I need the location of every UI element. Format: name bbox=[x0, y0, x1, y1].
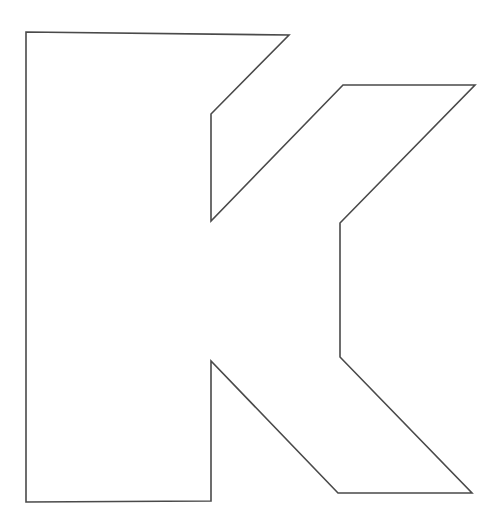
drawing-canvas bbox=[0, 0, 500, 526]
letter-k-drawing bbox=[0, 0, 500, 526]
